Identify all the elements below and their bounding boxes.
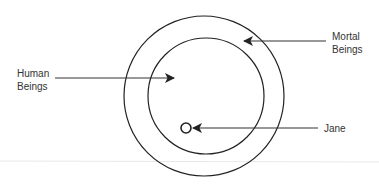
euler-diagram xyxy=(0,0,379,188)
human-beings-label: Human Beings xyxy=(17,67,49,93)
human-beings-label-line2: Beings xyxy=(17,80,49,93)
mortal-beings-label-line2: Beings xyxy=(332,43,363,56)
mortal-beings-label: Mortal Beings xyxy=(332,30,363,56)
faint-rule xyxy=(0,161,379,162)
jane-label: Jane xyxy=(324,122,346,135)
mortal-beings-label-line1: Mortal xyxy=(332,30,363,43)
human-beings-circle xyxy=(148,38,264,154)
human-beings-label-line1: Human xyxy=(17,67,49,80)
jane-point xyxy=(181,123,191,133)
jane-label-text: Jane xyxy=(324,122,346,135)
